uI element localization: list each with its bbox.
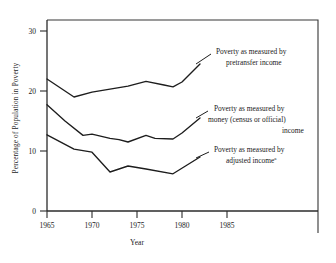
annot-money-line-2: money (census or official) [208, 115, 286, 124]
annot-adjusted-line-1: Poverty as measured by [214, 145, 285, 154]
poverty-line-chart: 30 20 10 0 1965 1970 1975 1980 1985 Year… [0, 0, 336, 263]
x-axis-title: Year [130, 238, 144, 247]
y-tick-label-10: 10 [29, 147, 37, 156]
annot-adjusted-line-2-text: adjusted income [226, 156, 275, 165]
y-tick-marks [40, 31, 47, 211]
x-tick-label-1970: 1970 [85, 221, 100, 230]
annot-pretransfer-line-2: pretransfer income [226, 58, 282, 67]
annot-adjusted-line-2: adjusted incomea [226, 156, 277, 165]
series-line-pretransfer [47, 64, 200, 97]
leader-money [196, 111, 208, 118]
x-tick-marks [47, 211, 227, 218]
x-tick-label-1980: 1980 [175, 221, 190, 230]
annot-money-line-1: Poverty as measured by [214, 104, 285, 113]
x-tick-label-1975: 1975 [130, 221, 145, 230]
annot-money-line-3: income [282, 126, 304, 135]
annot-adjusted-footnote-marker: a [274, 156, 277, 161]
annot-pretransfer-line-1: Poverty as measured by [216, 47, 287, 56]
y-tick-label-0: 0 [32, 207, 36, 216]
annot-money: Poverty as measured by money (census or … [208, 104, 304, 135]
leader-pretransfer [196, 54, 211, 64]
leader-adjusted [196, 152, 209, 158]
annot-pretransfer: Poverty as measured by pretransfer incom… [216, 47, 287, 67]
x-tick-label-1965: 1965 [40, 221, 55, 230]
y-tick-label-30: 30 [29, 27, 37, 36]
y-axis-title: Percentage of Population in Poverty [12, 62, 20, 173]
y-tick-label-20: 20 [29, 87, 37, 96]
annot-adjusted: Poverty as measured by adjusted incomea [214, 145, 285, 165]
x-tick-label-1985: 1985 [220, 221, 235, 230]
series-line-money [47, 105, 200, 142]
